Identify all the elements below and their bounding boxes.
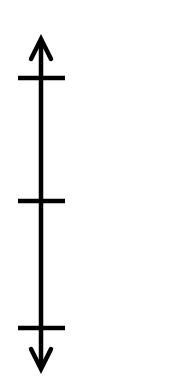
number-line-diagram xyxy=(0,0,172,387)
